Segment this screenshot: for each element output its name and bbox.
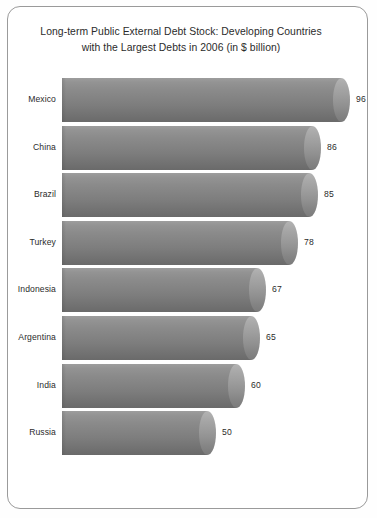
value-label-turkey: 78 — [304, 237, 314, 247]
bar-end-cap — [304, 126, 321, 170]
bar-end-cap — [243, 316, 260, 360]
bar-turkey[interactable] — [62, 221, 289, 265]
bar-body — [62, 411, 207, 455]
value-label-brazil: 85 — [324, 189, 334, 199]
bar-end-cap — [249, 268, 266, 312]
bar-body — [62, 364, 236, 408]
bar-row: Russia50 — [0, 411, 377, 455]
bar-row: China86 — [0, 126, 377, 170]
bar-end-cap — [333, 78, 350, 122]
value-label-indonesia: 67 — [272, 284, 282, 294]
category-label-mexico: Mexico — [8, 94, 56, 104]
bar-row: India60 — [0, 364, 377, 408]
bar-row: Turkey78 — [0, 221, 377, 265]
category-label-turkey: Turkey — [8, 237, 56, 247]
bar-left-face — [62, 126, 66, 170]
value-label-argentina: 65 — [266, 332, 276, 342]
plot-area: Mexico96China86Brazil85Turkey78Indonesia… — [0, 0, 377, 518]
bar-argentina[interactable] — [62, 316, 251, 360]
bar-row: Argentina65 — [0, 316, 377, 360]
bar-left-face — [62, 411, 66, 455]
bar-end-cap — [301, 173, 318, 217]
bar-row: Mexico96 — [0, 78, 377, 122]
bar-end-cap — [228, 364, 245, 408]
bar-row: Brazil85 — [0, 173, 377, 217]
bar-indonesia[interactable] — [62, 268, 257, 312]
bar-body — [62, 173, 309, 217]
bar-body — [62, 221, 289, 265]
category-label-indonesia: Indonesia — [8, 284, 56, 294]
bar-body — [62, 268, 257, 312]
bar-body — [62, 126, 312, 170]
bar-left-face — [62, 221, 66, 265]
bar-left-face — [62, 173, 66, 217]
category-label-brazil: Brazil — [8, 189, 56, 199]
value-label-russia: 50 — [222, 427, 232, 437]
bar-left-face — [62, 316, 66, 360]
bar-end-cap — [199, 411, 216, 455]
category-label-russia: Russia — [8, 427, 56, 437]
bar-row: Indonesia67 — [0, 268, 377, 312]
bar-end-cap — [281, 221, 298, 265]
bar-body — [62, 316, 251, 360]
category-label-india: India — [8, 380, 56, 390]
value-label-mexico: 96 — [356, 94, 366, 104]
category-label-china: China — [8, 142, 56, 152]
bar-brazil[interactable] — [62, 173, 309, 217]
bar-china[interactable] — [62, 126, 312, 170]
bar-russia[interactable] — [62, 411, 207, 455]
bar-left-face — [62, 78, 66, 122]
bar-left-face — [62, 364, 66, 408]
bar-body — [62, 78, 341, 122]
chart-figure: Long-term Public External Debt Stock: De… — [0, 0, 377, 518]
bar-india[interactable] — [62, 364, 236, 408]
bar-mexico[interactable] — [62, 78, 341, 122]
category-label-argentina: Argentina — [8, 332, 56, 342]
value-label-india: 60 — [251, 380, 261, 390]
bar-left-face — [62, 268, 66, 312]
value-label-china: 86 — [327, 142, 337, 152]
